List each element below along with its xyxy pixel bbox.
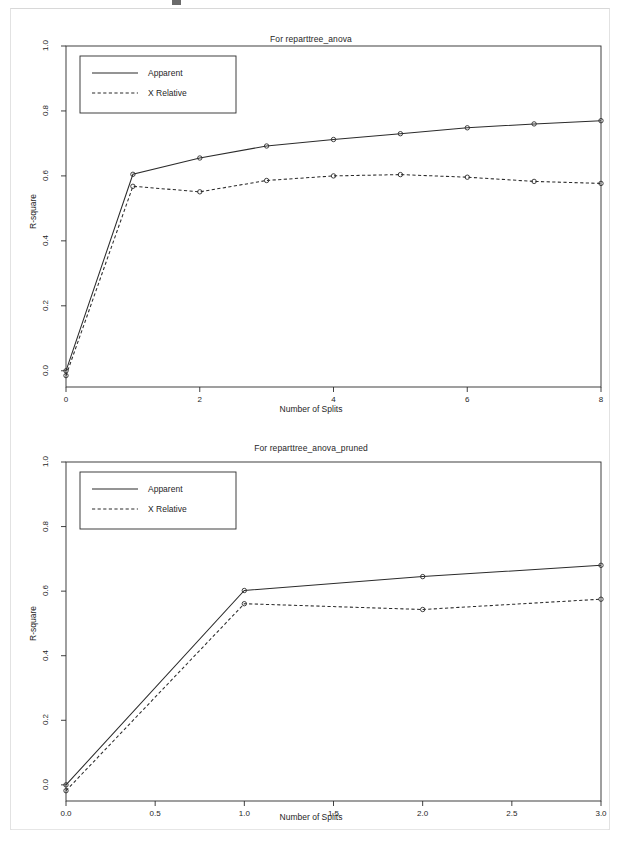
series-line-x-relative xyxy=(66,175,601,376)
legend-label-x-relative: X Relative xyxy=(148,88,187,98)
y-tick-label: 0.6 xyxy=(41,580,50,602)
scan-artifact-mark xyxy=(172,0,181,5)
y-tick-label: 1.0 xyxy=(41,451,50,473)
y-tick-label: 0.2 xyxy=(41,709,50,731)
series-line-apparent xyxy=(66,565,601,785)
y-tick-label: 1.0 xyxy=(41,35,50,57)
legend-label-apparent: Apparent xyxy=(148,68,183,78)
x-tick-label: 3.0 xyxy=(586,809,616,818)
series-line-apparent xyxy=(66,121,601,371)
x-tick-label: 0 xyxy=(51,395,81,404)
x-tick-label: 0.5 xyxy=(140,809,170,818)
y-tick-label: 0.8 xyxy=(41,99,50,121)
chart-1-plot-area xyxy=(0,14,622,424)
y-tick-label: 0.8 xyxy=(41,515,50,537)
x-tick-label: 2 xyxy=(185,395,215,404)
x-tick-label: 6 xyxy=(452,395,482,404)
chart-panel-reparttree-anova: For reparttree_anova R-square Number of … xyxy=(0,14,622,424)
chart-panel-reparttree-anova-pruned: For reparttree_anova_pruned R-square Num… xyxy=(0,436,622,836)
chart-2-plot-area xyxy=(0,436,622,836)
x-tick-label: 0.0 xyxy=(51,809,81,818)
x-tick-label: 2.0 xyxy=(408,809,438,818)
y-tick-label: 0.0 xyxy=(41,359,50,381)
y-tick-label: 0.0 xyxy=(41,773,50,795)
series-line-x-relative xyxy=(66,599,601,791)
legend-label-apparent: Apparent xyxy=(148,484,183,494)
x-tick-label: 1.5 xyxy=(319,809,349,818)
x-tick-label: 8 xyxy=(586,395,616,404)
y-tick-label: 0.2 xyxy=(41,294,50,316)
legend-label-x-relative: X Relative xyxy=(148,504,187,514)
y-tick-label: 0.4 xyxy=(41,229,50,251)
x-tick-label: 2.5 xyxy=(497,809,527,818)
y-tick-label: 0.4 xyxy=(41,644,50,666)
x-tick-label: 1.0 xyxy=(229,809,259,818)
y-tick-label: 0.6 xyxy=(41,164,50,186)
x-tick-label: 4 xyxy=(319,395,349,404)
